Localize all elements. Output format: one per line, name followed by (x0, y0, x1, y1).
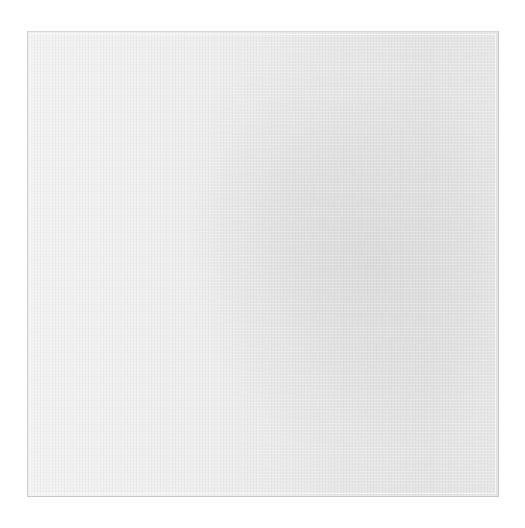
canvas-inner-edge (30, 34, 496, 494)
image-stage (0, 0, 525, 528)
canvas-texture (28, 32, 498, 496)
blank-canvas-panel (27, 31, 499, 497)
